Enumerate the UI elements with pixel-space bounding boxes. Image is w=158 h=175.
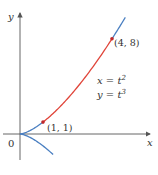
curve-upper-branch-start xyxy=(20,122,43,134)
x-axis-label: x xyxy=(147,137,153,148)
curve-upper-branch-end xyxy=(112,17,125,38)
equation-x: x = t2 xyxy=(97,74,126,86)
point-1-1-marker xyxy=(41,120,45,124)
y-axis-label: y xyxy=(7,11,14,22)
equation-y: y = t3 xyxy=(96,88,126,100)
curve-lower-branch xyxy=(20,134,53,155)
point-label-4-8: (4, 8) xyxy=(114,37,140,48)
point-label-1-1: (1, 1) xyxy=(47,122,73,133)
parametric-plot: y x 0 (1, 1) (4, 8) x = t2 y = t3 xyxy=(0,0,158,175)
origin-label: 0 xyxy=(8,138,14,149)
